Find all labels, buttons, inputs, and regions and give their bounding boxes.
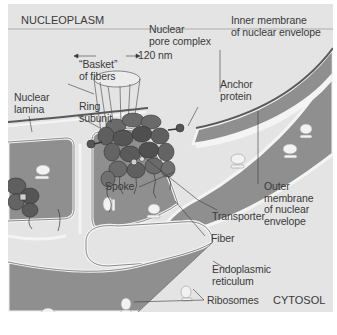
ring-subunit-label: Ring subunit	[79, 101, 112, 124]
scale-120nm-label: 120 nm	[138, 50, 172, 62]
endoplasmic-reticulum-label: Endoplasmic reticulum	[212, 264, 271, 287]
inner-membrane-label: Inner membrane of nuclear envelope	[231, 15, 321, 38]
nuclear-lamina-label: Nuclear lamina	[14, 92, 49, 115]
diagram-panel: NUCLEOPLASM Nuclear pore complex 120 nm …	[8, 4, 333, 312]
basket-of-fibers-label: “Basket” of fibers	[79, 59, 117, 82]
nuclear-pore-complex-label: Nuclear pore complex	[149, 24, 211, 47]
transporter-label: Transporter	[212, 211, 265, 223]
spoke-label: Spoke	[105, 181, 134, 193]
nucleoplasm-label: NUCLEOPLASM	[21, 15, 104, 27]
cytosol-label: CYTOSOL	[273, 295, 325, 307]
ribosomes-label: Ribosomes	[207, 295, 259, 307]
faded-caption-strip	[8, 324, 308, 330]
figure-canvas: NUCLEOPLASM Nuclear pore complex 120 nm …	[0, 0, 337, 335]
outer-membrane-label: Outer membrane of nuclear envelope	[264, 181, 313, 227]
fiber-label: Fiber	[211, 233, 234, 245]
anchor-protein-label: Anchor protein	[220, 79, 253, 102]
